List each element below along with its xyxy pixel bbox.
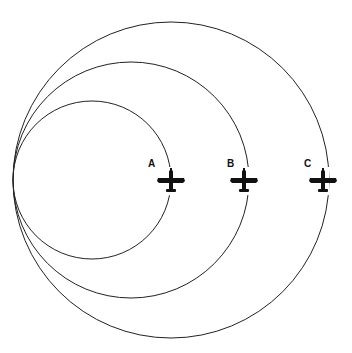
circles-layer	[0, 0, 352, 353]
circle-b	[13, 62, 249, 298]
plane-label-b: B	[227, 158, 234, 169]
airplane-icon-c	[309, 167, 337, 195]
plane-label-a: A	[148, 158, 155, 169]
airplane-icon-b	[230, 167, 258, 195]
circle-a	[13, 101, 171, 259]
airplane-icon-a	[157, 167, 185, 195]
turning-circles-diagram: A B C	[0, 0, 352, 353]
plane-label-c: C	[304, 158, 311, 169]
